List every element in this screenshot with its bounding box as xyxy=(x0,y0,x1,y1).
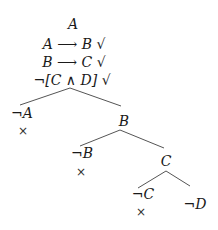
truth-tree-diagram: A A ⟶ B √ B ⟶ C √ ¬[C ∧ D] √ ¬A × B ¬B ×… xyxy=(0,0,218,230)
premise-4: ¬[C ∧ D] √ xyxy=(33,73,110,87)
node-notA: ¬A xyxy=(11,106,33,120)
premise-3: B ⟶ C √ xyxy=(42,55,105,69)
premise-1: A xyxy=(68,17,78,31)
branch-line-C xyxy=(120,130,164,148)
branch-line-notB xyxy=(80,130,120,146)
node-notD: ¬D xyxy=(184,197,207,211)
node-B: B xyxy=(119,114,129,128)
node-C: C xyxy=(161,154,172,168)
branch-line-notA xyxy=(20,88,70,105)
closed-branch-mark-notB: × xyxy=(76,166,86,178)
closed-branch-mark-notC: × xyxy=(136,206,146,218)
node-notB: ¬B xyxy=(71,146,93,160)
node-notC: ¬C xyxy=(132,187,154,201)
branch-line-notD xyxy=(166,171,190,186)
premise-2: A ⟶ B √ xyxy=(43,37,106,51)
closed-branch-mark-notA: × xyxy=(18,125,28,137)
branch-line-B xyxy=(70,88,121,106)
